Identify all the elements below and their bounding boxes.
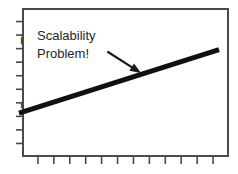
callout-text-line-1: Scalability [37, 27, 96, 45]
annotation-layer [0, 0, 238, 174]
callout-text: Scalability Problem! [37, 27, 96, 63]
chart-figure: Response Time Scalability Problem! [0, 0, 238, 174]
callout-arrow-icon [108, 52, 141, 73]
callout-text-line-2: Problem! [37, 45, 96, 63]
